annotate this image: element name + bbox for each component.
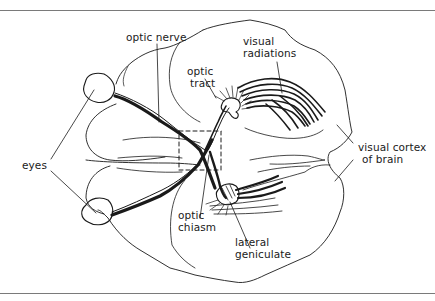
label-visual-cortex-2: of brain bbox=[362, 153, 403, 165]
geniculate-lower-texture bbox=[222, 185, 235, 200]
optic-tract-upper bbox=[205, 106, 226, 150]
lateral-geniculate-lower bbox=[217, 184, 240, 205]
geniculate-lower-spokes bbox=[206, 200, 228, 215]
visual-radiations-upper bbox=[238, 79, 325, 130]
optic-nerve-lower bbox=[112, 140, 212, 215]
right-fold-1 bbox=[245, 128, 323, 138]
leader-eyes-upper bbox=[51, 90, 94, 159]
left-lobe-upper bbox=[86, 104, 165, 161]
leader-optic-nerve bbox=[157, 44, 159, 122]
left-lobe-midline bbox=[86, 160, 200, 165]
visual-radiations-lower-thin bbox=[210, 198, 282, 214]
label-eyes: eyes bbox=[22, 159, 47, 171]
figure-frame: optic nerve optic tract visual radiation… bbox=[0, 0, 435, 301]
label-optic-nerve: optic nerve bbox=[126, 31, 186, 43]
label-lateral-geniculate-1: lateral bbox=[235, 236, 269, 248]
label-lateral-geniculate-2: geniculate bbox=[235, 248, 291, 260]
label-visual-radiations-2: radiations bbox=[243, 47, 296, 59]
label-visual-cortex-1: visual cortex bbox=[358, 141, 426, 153]
label-optic-chiasm-1: optic bbox=[178, 209, 204, 221]
inner-fold-3 bbox=[117, 168, 182, 172]
right-fold-3 bbox=[258, 166, 310, 172]
leader-visual-cortex-lower bbox=[335, 160, 353, 181]
optic-nerve-upper bbox=[115, 96, 215, 188]
leader-visual-radiations bbox=[277, 62, 282, 93]
label-optic-tract-2: tract bbox=[190, 77, 215, 89]
right-fold-4 bbox=[243, 165, 330, 190]
label-optic-chiasm-2: chiasm bbox=[178, 221, 216, 233]
label-optic-tract-1: optic bbox=[187, 65, 213, 77]
leader-eyes-lower bbox=[51, 171, 96, 213]
optic-tract-upper-b bbox=[208, 108, 229, 150]
inner-fold-upper-brow bbox=[123, 66, 128, 86]
eye-upper bbox=[84, 73, 115, 102]
label-visual-radiations-1: visual bbox=[243, 35, 274, 47]
inner-fold-2 bbox=[118, 156, 182, 158]
right-fold-2 bbox=[250, 155, 325, 164]
